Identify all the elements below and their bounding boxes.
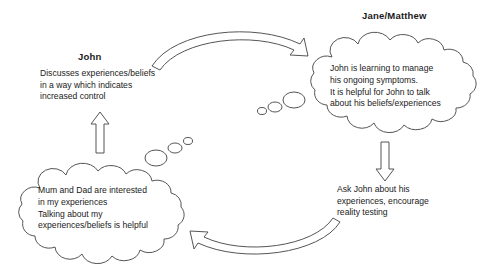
john-behaviour-line-3: increased control — [40, 91, 155, 103]
john-behaviour-line-2: in a way which indicates — [40, 80, 155, 92]
carer-thought-line-2: his ongoing symptoms. — [330, 75, 441, 87]
carer-action-text: Ask John about his experiences, encourag… — [337, 184, 429, 219]
carer-thought-tail — [258, 92, 306, 115]
john-thought-line-1: Mum and Dad are interested — [38, 185, 148, 197]
carer-action-line-1: Ask John about his — [337, 184, 429, 196]
john-thought-line-4: experiences/beliefs is helpful — [38, 220, 148, 232]
carer-action-line-3: reality testing — [337, 207, 429, 219]
john-thought-line-3: Talking about my — [38, 209, 148, 221]
john-thought-tail — [145, 138, 193, 167]
carer-thought-line-4: about his beliefs/experiences — [330, 98, 441, 110]
carer-action-line-2: experiences, encourage — [337, 196, 429, 208]
john-thought-text: Mum and Dad are interested in my experie… — [38, 185, 148, 232]
john-thought-line-2: in my experiences — [38, 197, 148, 209]
down-block-arrow — [376, 142, 394, 181]
up-block-arrow — [91, 112, 109, 153]
john-behaviour-line-1: Discusses experiences/beliefs — [40, 68, 155, 80]
carer-thought-line-3: It is helpful for John to talk — [330, 87, 441, 99]
jane-matthew-label: Jane/Matthew — [362, 10, 427, 21]
bottom-curved-arrow — [190, 218, 340, 254]
carer-thought-line-1: John is learning to manage — [330, 63, 441, 75]
john-label: John — [78, 51, 102, 62]
john-behaviour-text: Discusses experiences/beliefs in a way w… — [40, 68, 155, 103]
diagram-graphics — [0, 0, 492, 276]
top-curved-arrow — [152, 32, 308, 70]
carer-thought-text: John is learning to manage his ongoing s… — [330, 63, 441, 110]
diagram-canvas: John Jane/Matthew Discusses experiences/… — [0, 0, 492, 276]
